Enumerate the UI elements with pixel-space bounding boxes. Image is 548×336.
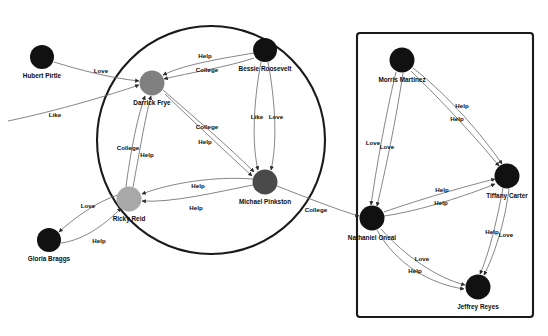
edge-e20: [384, 179, 495, 212]
edge-label-e10: Help: [140, 151, 154, 158]
edge-label-e3: Help: [198, 52, 212, 59]
node-tiffany[interactable]: [495, 164, 520, 189]
edge-label-e13: Love: [81, 202, 96, 209]
edge-label-e14: Help: [92, 237, 106, 244]
node-bessie[interactable]: [253, 38, 277, 62]
edge-e8: [165, 94, 252, 176]
node-ricky[interactable]: [117, 187, 142, 212]
node-jeffrey[interactable]: [466, 275, 491, 300]
edge-e7: [163, 90, 254, 172]
edge-e2: [8, 85, 139, 121]
node-hubert[interactable]: [30, 45, 54, 69]
node-label-ricky: Ricky Reid: [113, 215, 146, 223]
edge-label-e4: College: [196, 66, 219, 73]
edge-label-e1: Love: [94, 67, 109, 74]
edge-label-e15: College: [305, 206, 328, 213]
nodes-layer: [30, 38, 520, 300]
edge-label-e21: Help: [434, 199, 448, 206]
node-gloria[interactable]: [37, 228, 61, 252]
edge-label-e5: Like: [251, 113, 264, 120]
node-label-jeffrey: Jeffrey Reyes: [457, 303, 499, 311]
node-label-bessie: Bessie Roosevelt: [239, 65, 293, 72]
network-diagram-canvas: LoveLikeHelpCollegeLikeLoveCollegeHelpCo…: [0, 0, 548, 336]
edge-label-e22: Love: [415, 255, 430, 262]
edges-layer: [8, 53, 509, 289]
node-michael[interactable]: [253, 170, 278, 195]
node-label-nathaniel: Nathaniel Oneal: [348, 234, 397, 241]
edge-e13: [59, 195, 118, 232]
edge-label-e25: Love: [499, 231, 514, 238]
edge-label-e11: Help: [191, 182, 205, 189]
edge-label-e19: Help: [450, 115, 464, 122]
edge-label-e7: College: [196, 123, 219, 130]
edge-label-e23: Help: [408, 267, 422, 274]
edge-label-e6: Love: [269, 113, 284, 120]
node-label-hubert: Hubert Pirtle: [23, 72, 62, 79]
edge-label-e9: College: [117, 144, 140, 151]
node-darrick[interactable]: [140, 71, 165, 96]
edge-labels-layer: LoveLikeHelpCollegeLikeLoveCollegeHelpCo…: [49, 52, 514, 274]
edge-e17: [377, 73, 403, 206]
group-outlines-layer: [97, 26, 533, 317]
node-label-morris: Morris Martinez: [378, 76, 425, 83]
edge-label-e20: Help: [435, 186, 449, 193]
edge-label-e16: Love: [366, 139, 381, 146]
edge-e10: [133, 96, 151, 187]
node-label-gloria: Gloria Braggs: [28, 255, 71, 263]
edge-label-e18: Help: [455, 102, 469, 109]
node-label-michael: Michael Pinkston: [239, 198, 291, 205]
edge-label-e2: Like: [49, 111, 62, 118]
edge-label-e12: Help: [189, 204, 203, 211]
node-label-tiffany: Tiffany Carter: [486, 192, 528, 200]
graph-svg: LoveLikeHelpCollegeLikeLoveCollegeHelpCo…: [0, 0, 548, 336]
edge-label-e24: Help: [485, 228, 499, 235]
edge-label-e8: Help: [198, 138, 212, 145]
node-nathaniel[interactable]: [360, 206, 385, 231]
node-label-darrick: Darrick Frye: [133, 99, 171, 107]
edge-e14: [61, 208, 121, 243]
edge-label-e17: Love: [380, 143, 395, 150]
node-morris[interactable]: [390, 48, 415, 73]
